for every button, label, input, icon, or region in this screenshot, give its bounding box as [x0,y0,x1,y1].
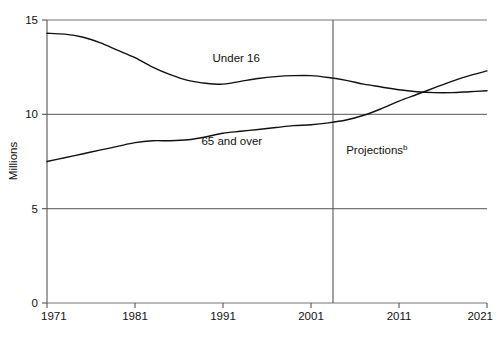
x-tick-label-1981: 1981 [122,310,148,322]
y-tick-label-5: 5 [32,203,38,215]
projections-divider-label: Projectionsb [346,143,408,156]
y-tick-label-15: 15 [25,14,38,26]
projections-divider-label-text: Projections [346,144,403,156]
projections-divider-label-superscript: b [403,143,408,152]
x-tick-label-2001: 2001 [298,310,324,322]
x-tick-label-2011: 2011 [387,310,412,322]
series-label-under-16: Under 16 [213,52,260,64]
y-tick-label-10: 10 [25,108,38,120]
y-axis-title: Millions [7,142,19,181]
chart-background [0,0,503,338]
x-tick-label-2021: 2021 [467,310,493,322]
x-tick-label-1971: 1971 [41,310,67,322]
y-tick-label-0: 0 [32,297,38,309]
x-tick-label-1991: 1991 [210,310,236,322]
population-projection-line-chart: 051015 197119811991200120112021 Millions… [0,0,503,338]
chart-container: 051015 197119811991200120112021 Millions… [0,0,503,338]
series-label-65-and-over: 65 and over [201,135,262,147]
